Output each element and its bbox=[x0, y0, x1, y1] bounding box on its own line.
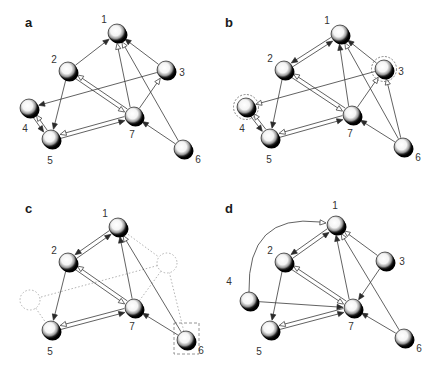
node-sphere bbox=[395, 329, 413, 347]
arrowhead-6-1 bbox=[345, 43, 350, 50]
edge-7-5 bbox=[283, 309, 344, 325]
panel-d: d 1234567 bbox=[225, 200, 422, 357]
edge-6-7 bbox=[365, 315, 396, 333]
edge-2-7 bbox=[291, 269, 341, 302]
edge-7-2 bbox=[296, 268, 346, 301]
node-1[interactable]: 1 bbox=[327, 200, 347, 236]
node-6[interactable]: 6 bbox=[395, 329, 422, 354]
node-2[interactable]: 2 bbox=[51, 54, 78, 82]
node-sphere bbox=[261, 129, 279, 147]
arrowhead-7-1 bbox=[116, 43, 121, 49]
node-5[interactable]: 5 bbox=[42, 130, 62, 166]
node-3[interactable]: 3 bbox=[375, 60, 404, 80]
node-sphere bbox=[237, 98, 255, 116]
panel-c: c 12567 bbox=[20, 201, 204, 357]
node-sphere bbox=[275, 61, 293, 79]
arrowhead-2-7 bbox=[336, 106, 342, 111]
arrowhead-2-5 bbox=[52, 314, 57, 320]
edge-1-2 bbox=[78, 231, 109, 253]
arrowhead-2-5 bbox=[271, 314, 276, 320]
node-sphere bbox=[376, 252, 394, 270]
arrowhead-5-7 bbox=[118, 120, 124, 125]
node-6[interactable]: 6 bbox=[177, 331, 204, 356]
node-2[interactable]: 2 bbox=[267, 53, 294, 81]
node-2[interactable]: 2 bbox=[267, 245, 294, 273]
node-label-7: 7 bbox=[347, 128, 353, 139]
node-7[interactable]: 7 bbox=[125, 107, 145, 140]
edge-7-2 bbox=[296, 76, 345, 108]
node-label-4: 4 bbox=[239, 123, 245, 134]
node-7[interactable]: 7 bbox=[344, 299, 364, 332]
arrowhead-2-5 bbox=[271, 122, 276, 128]
arrowhead-6-7 bbox=[360, 120, 366, 125]
arrowhead-3-1 bbox=[348, 40, 354, 46]
arrowhead-7-2 bbox=[293, 74, 299, 79]
arrowhead-7-1 bbox=[338, 44, 343, 50]
network-figure: a 1234567 b 1234567 c 12567 d 1234567 bbox=[0, 0, 444, 373]
node-2[interactable]: 2 bbox=[51, 245, 78, 273]
ghost-edge-3-4 bbox=[40, 266, 158, 298]
arrowhead-2-7 bbox=[118, 298, 124, 304]
node-sphere bbox=[331, 25, 349, 43]
node-label-4: 4 bbox=[22, 123, 28, 134]
ghost-edge-6-3 bbox=[169, 273, 183, 332]
node-4[interactable]: 4 bbox=[226, 276, 259, 312]
arrowhead-4-5 bbox=[38, 126, 44, 132]
node-sphere bbox=[174, 140, 192, 158]
edge-4-7 bbox=[258, 302, 339, 307]
node-6[interactable]: 6 bbox=[394, 138, 421, 163]
node-sphere bbox=[327, 216, 345, 234]
node-7[interactable]: 7 bbox=[343, 106, 363, 139]
node-7[interactable]: 7 bbox=[125, 299, 145, 332]
node-sphere bbox=[261, 321, 279, 339]
arrowhead-1-2 bbox=[291, 249, 297, 255]
arrowhead-2-5 bbox=[52, 123, 57, 129]
node-4[interactable]: 4 bbox=[237, 98, 257, 134]
arrowhead-7-5 bbox=[60, 130, 66, 135]
node-3[interactable]: 3 bbox=[157, 61, 185, 81]
node-label-5: 5 bbox=[47, 155, 53, 166]
edge-3-1 bbox=[347, 233, 377, 255]
arrowhead-7-5 bbox=[60, 321, 66, 326]
edge-2-1 bbox=[77, 236, 108, 258]
node-label-2: 2 bbox=[267, 245, 273, 256]
edge-5-7 bbox=[280, 313, 341, 329]
node-3[interactable]: 3 bbox=[376, 252, 405, 272]
arrowhead-4-5 bbox=[257, 125, 263, 131]
node-sphere bbox=[59, 253, 77, 271]
node-sphere bbox=[125, 299, 143, 317]
panel-label-d: d bbox=[225, 201, 233, 216]
edge-7-5 bbox=[64, 117, 125, 134]
arrowhead-6-1 bbox=[122, 42, 127, 49]
node-label-1: 1 bbox=[101, 14, 107, 25]
node-sphere bbox=[375, 60, 393, 78]
node-5[interactable]: 5 bbox=[256, 321, 280, 357]
panel-label-c: c bbox=[25, 201, 32, 216]
node-1[interactable]: 1 bbox=[324, 15, 350, 45]
node-6[interactable]: 6 bbox=[174, 140, 201, 165]
node-1[interactable]: 1 bbox=[101, 14, 127, 44]
node-sphere bbox=[177, 331, 195, 349]
arrowhead-6-7 bbox=[362, 313, 368, 318]
arc-arrowhead-4-1 bbox=[320, 220, 326, 225]
node-label-1: 1 bbox=[102, 208, 108, 219]
arrowhead-3-1 bbox=[344, 231, 350, 237]
arrowhead-5-7 bbox=[336, 119, 342, 124]
node-5[interactable]: 5 bbox=[42, 321, 62, 357]
edge-2-5 bbox=[273, 79, 282, 124]
edge-2-1 bbox=[76, 41, 107, 65]
arrowhead-7-1 bbox=[119, 237, 124, 243]
node-sphere bbox=[240, 292, 258, 310]
edge-7-1 bbox=[340, 48, 349, 106]
edge-6-1 bbox=[124, 45, 179, 141]
edge-7-2 bbox=[80, 77, 127, 109]
edges-c bbox=[36, 231, 184, 335]
edges-d bbox=[249, 220, 399, 333]
arrowhead-6-1 bbox=[341, 234, 346, 240]
edge-2-5 bbox=[273, 271, 282, 316]
arrowhead-7-5 bbox=[279, 321, 285, 326]
node-label-3: 3 bbox=[399, 256, 405, 267]
node-5[interactable]: 5 bbox=[261, 129, 281, 165]
arrowhead-7-1 bbox=[335, 235, 340, 241]
ghost-edge-7-3 bbox=[139, 271, 161, 301]
